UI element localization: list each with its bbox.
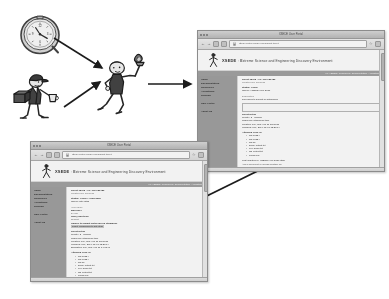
nav-strip-text-bottom: My XSEDE | Resources | Documentation | A… (148, 183, 203, 185)
attached-files-list-bottom: job.o1234 job.e1234 job.sh slurm-output.… (71, 255, 203, 277)
svg-text:9: 9 (32, 32, 34, 36)
brand-sub-bottom: xtreme Science and Engineering Discovery… (76, 170, 166, 174)
reload-icon[interactable] (46, 152, 52, 158)
vertical-scrollbar-top[interactable] (379, 50, 384, 167)
brand-name-top: XSEDE (222, 58, 236, 63)
brand-sub-top: xtreme Science and Engineering Discovery… (243, 59, 333, 63)
bookmark-star-icon[interactable]: ☆ (369, 42, 373, 46)
sidebar-item-about-us[interactable]: About Us (201, 111, 235, 114)
lock-icon: 🔒 (232, 42, 237, 46)
status-badge: Ticket reassigned to site staff (71, 225, 104, 228)
browser-window-bottom[interactable]: XSEDE User Portal ← → 🔒 https://portal.x… (30, 141, 208, 282)
status-left-bottom: Done (34, 280, 40, 282)
site-header-top: XSEDE : Extreme Science and Engineering … (198, 50, 384, 71)
browser-window-top[interactable]: XSEDE User Portal ← → 🔒 https://portal.x… (197, 30, 385, 172)
sidebar-item-user-portal[interactable]: User Portal (34, 214, 64, 217)
home-icon[interactable] (54, 152, 60, 158)
url-text-top: https://portal.xsede.org/submit-ticket (239, 41, 279, 47)
svg-text:3: 3 (47, 32, 49, 36)
comment-box-top[interactable] (242, 103, 380, 112)
browser-toolbar-bottom[interactable]: ← → 🔒 https://portal.xsede.org/submit-ti… (31, 150, 207, 161)
content-area-bottom: Ticket 12345 : TG-TRA123456 Created Tue … (66, 187, 207, 278)
list-item[interactable]: config.log (249, 154, 380, 157)
sidebar-bottom[interactable]: Home Documentation Resources Allocations… (31, 187, 66, 278)
menu-icon[interactable] (198, 152, 204, 158)
runner-with-torch-icon (92, 52, 154, 120)
sidebar-item-documentation[interactable]: Documentation (34, 194, 64, 197)
site-brand-top: XSEDE : Extreme Science and Engineering … (222, 58, 333, 63)
svg-text:12: 12 (38, 24, 42, 28)
sidebar-item-training[interactable]: Training (201, 95, 235, 98)
back-arrow-icon[interactable]: ← (34, 153, 38, 157)
list-item[interactable]: config.log (78, 274, 203, 277)
vertical-scrollbar-bottom[interactable] (202, 161, 207, 277)
window-title-bottom: XSEDE User Portal (31, 142, 207, 149)
nav-strip-text-top: My XSEDE | Resources | Documentation | A… (325, 72, 380, 74)
reload-icon[interactable] (213, 41, 219, 47)
footer-link-top[interactable]: Add a comment or upload another file (242, 163, 380, 166)
lock-icon: 🔒 (65, 153, 70, 157)
scrollbar-thumb[interactable] (381, 53, 385, 81)
content-area-top: Ticket 12345 : TG-TRA123456 Created Tue … (237, 76, 384, 168)
status-bar-bottom: Done (31, 277, 207, 282)
site-brand-bottom: XSEDE : Extreme Science and Engineering … (55, 169, 166, 174)
xsede-walking-figure-logo (41, 164, 52, 179)
site-header-bottom: XSEDE : Extreme Science and Engineering … (31, 161, 207, 182)
sidebar-item-training[interactable]: Training (34, 206, 64, 209)
xsede-walking-figure-logo (208, 53, 219, 68)
arrow-runner-to-window (147, 76, 199, 92)
sidebar-item-home[interactable]: Home (201, 79, 235, 82)
title-bar-bottom[interactable]: XSEDE User Portal (31, 142, 207, 150)
brand-separator-bottom: : (71, 170, 72, 174)
sidebar-item-about-us[interactable]: About Us (34, 222, 64, 225)
page-body-bottom: Home Documentation Resources Allocations… (31, 187, 207, 278)
bookmark-star-icon[interactable]: ☆ (192, 153, 196, 157)
menu-icon[interactable] (375, 41, 381, 47)
sidebar-item-home[interactable]: Home (34, 190, 64, 193)
back-arrow-icon[interactable]: ← (201, 42, 205, 46)
status-bar-top: Done (198, 167, 384, 172)
forward-arrow-icon[interactable]: → (207, 42, 211, 46)
page-viewport-top: XSEDE : Extreme Science and Engineering … (198, 50, 384, 167)
page-body-top: Home Documentation Resources Allocations… (198, 76, 384, 168)
brand-name-bottom: XSEDE (55, 169, 69, 174)
sidebar-item-user-portal[interactable]: User Portal (201, 103, 235, 106)
home-icon[interactable] (221, 41, 227, 47)
svg-text:6: 6 (39, 40, 41, 44)
scrollbar-thumb[interactable] (204, 164, 208, 192)
title-bar-top[interactable]: XSEDE User Portal (198, 31, 384, 39)
figure-stage: 12 3 6 9 (0, 0, 389, 299)
url-bar-top[interactable]: 🔒 https://portal.xsede.org/submit-ticket (229, 40, 367, 48)
page-viewport-bottom: XSEDE : Extreme Science and Engineering … (31, 161, 207, 277)
url-text-bottom: https://portal.xsede.org/submit-ticket (72, 152, 112, 158)
browser-toolbar-top[interactable]: ← → 🔒 https://portal.xsede.org/submit-ti… (198, 39, 384, 50)
forward-arrow-icon[interactable]: → (40, 153, 44, 157)
url-bar-bottom[interactable]: 🔒 https://portal.xsede.org/submit-ticket (62, 151, 190, 159)
brand-separator-top: : (238, 59, 239, 63)
attached-files-list-top: job.o1234 job.e1234 job.sh slurm-output.… (242, 134, 380, 156)
sidebar-item-documentation[interactable]: Documentation (201, 83, 235, 86)
description-text-top: Job failing to submit on Stampede (242, 98, 380, 101)
window-title-top: XSEDE User Portal (198, 31, 384, 38)
